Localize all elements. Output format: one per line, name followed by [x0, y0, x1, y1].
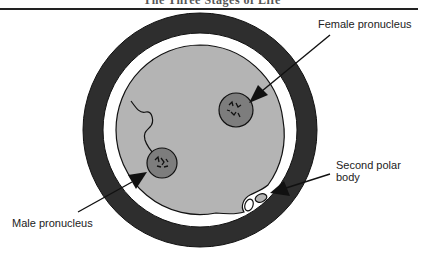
- female-pronucleus: [219, 93, 253, 127]
- label-second-polar-body: Second polar body: [336, 159, 401, 183]
- label-male-pronucleus: Male pronucleus: [12, 217, 93, 229]
- label-second-polar-body-line2: body: [336, 171, 401, 183]
- label-second-polar-body-line1: Second polar: [336, 159, 401, 171]
- label-female-pronucleus: Female pronucleus: [318, 18, 412, 30]
- male-pronucleus: [147, 148, 177, 178]
- cytoplasm: [116, 45, 284, 215]
